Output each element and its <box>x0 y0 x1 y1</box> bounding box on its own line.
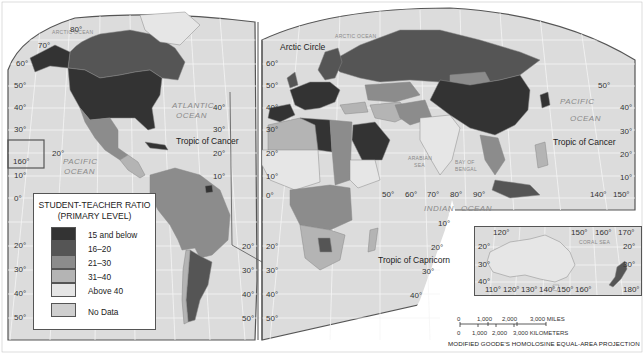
lat-label: 50° <box>598 82 610 90</box>
tropic-of-cancer-label-east: Tropic of Cancer <box>553 138 616 147</box>
lat-label: 30° <box>266 267 278 275</box>
lat-label: 70° <box>38 42 50 50</box>
lon-label: 50° <box>382 191 394 199</box>
lat-label: 30° <box>266 126 278 134</box>
pacific-ocean-label-west-1: PACIFIC <box>63 158 97 166</box>
lat-label: 10° <box>213 173 225 181</box>
legend-swatch-21-30 <box>51 255 76 269</box>
inset-lon-label: 110° <box>485 286 501 294</box>
legend-swatch-16-20 <box>51 241 76 255</box>
inset-lon-label: 140° <box>539 286 556 294</box>
lat-label: 40° <box>14 104 26 112</box>
country-australia <box>487 235 575 282</box>
tropic-of-cancer-label-west: Tropic of Cancer <box>176 137 239 146</box>
lat-label: 30° <box>14 266 26 274</box>
indian-ocean-label-2: OCEAN <box>461 205 492 213</box>
lat-label: 40° <box>242 291 254 299</box>
legend-swatch-above-40 <box>51 283 76 297</box>
legend-swatch-31-40 <box>51 269 76 283</box>
arctic-ocean-label-east: ARCTIC OCEAN <box>335 34 376 39</box>
lat-label: 20° <box>620 151 632 159</box>
legend-title-line-1: STUDENT-TEACHER RATIO <box>34 200 155 211</box>
inset-lat-label: 30° <box>623 261 635 269</box>
legend-label-16-20: 16–20 <box>88 244 111 254</box>
map-legend: STUDENT-TEACHER RATIO (PRIMARY LEVEL) 15… <box>33 193 156 330</box>
coral-sea-label: CORAL SEA <box>579 240 610 245</box>
country-suriname <box>205 185 213 193</box>
inset-lon-label: 130° <box>521 286 538 294</box>
lat-label: 20° <box>213 150 225 158</box>
prime-meridian-label: 0° <box>266 192 274 200</box>
arabian-sea-label-2: SEA <box>414 163 425 168</box>
lat-label: 10° <box>14 172 26 180</box>
bay-of-bengal-label-1: BAY OF <box>455 160 475 165</box>
lon-label: 90° <box>473 191 485 199</box>
inset-lon-label: 160° <box>595 229 612 237</box>
legend-label-31-40: 31–40 <box>88 272 111 282</box>
lat-label: 50° <box>14 314 26 322</box>
inset-lon-label: 120° <box>503 286 520 294</box>
lat-label: 40° <box>620 104 632 112</box>
atlantic-ocean-label-2: OCEAN <box>176 112 207 120</box>
lat-label: 20° <box>431 244 443 252</box>
legend-label-above-40: Above 40 <box>88 286 123 296</box>
indian-ocean-label-1: INDIAN <box>424 205 454 213</box>
inset-lon-label: 170° <box>618 229 635 237</box>
inset-lon-label: 180° <box>623 286 640 294</box>
lat-label: 0° <box>14 195 22 203</box>
lon-label: 140° <box>590 191 607 199</box>
lat-label: 30° <box>14 126 26 134</box>
inset-lon-label: 160° <box>575 286 592 294</box>
scale-km-1000: 1,000 <box>472 330 487 336</box>
lat-label: 20° <box>14 242 26 250</box>
lat-label: 20° <box>266 150 278 158</box>
tropic-of-capricorn-label: Tropic of Capricorn <box>378 256 450 265</box>
lat-label: 20° <box>266 243 278 251</box>
arctic-circle-label: Arctic Circle <box>280 43 325 52</box>
pacific-ocean-label-east-2: OCEAN <box>570 115 601 123</box>
atlantic-ocean-label-1: ATLANTIC <box>172 102 214 110</box>
lat-label: 50° <box>266 82 278 90</box>
lon-label: 60° <box>405 191 417 199</box>
lat-label: 30° <box>422 268 434 276</box>
legend-title-line-2: (PRIMARY LEVEL) <box>34 211 155 222</box>
inset-lat-label: 20° <box>478 243 490 251</box>
lat-label: 30° <box>620 128 632 136</box>
lat-label: 80° <box>70 26 82 34</box>
legend-label-no-data: No Data <box>88 307 118 317</box>
lat-label: 60° <box>16 60 28 68</box>
lat-label: 40° <box>14 290 26 298</box>
legend-label-15-below: 15 and below <box>88 230 137 240</box>
country-central-africa <box>290 185 352 230</box>
lat-label: 50° <box>266 315 278 323</box>
scale-bar: 0 1,000 2,000 3,000 MILES 0 1,000 2,000 … <box>440 300 644 355</box>
lat-label: 30° <box>242 267 254 275</box>
country-botswana <box>318 238 332 252</box>
lat-label: 40° <box>266 104 278 112</box>
projection-caption: MODIFIED GOODE'S HOMOLOSINE EQUAL-AREA P… <box>448 340 640 347</box>
lat-label: 40° <box>266 291 278 299</box>
inset-lon-label: 120° <box>493 229 510 237</box>
lon-label: 70° <box>427 191 439 199</box>
bay-of-bengal-label-2: BENGAL <box>455 167 477 172</box>
scale-km-2000: 2,000 <box>492 330 507 336</box>
lat-label: 50° <box>14 82 26 90</box>
legend-swatch-15-below <box>51 227 76 241</box>
lat-label: 10° <box>620 174 632 182</box>
inset-lon-label: 150° <box>557 286 574 294</box>
lat-label: 10° <box>266 173 278 181</box>
lat-label: 60° <box>266 60 278 68</box>
scale-km-3000: 3,000 KILOMETERS <box>513 330 568 336</box>
legend-label-21-30: 21–30 <box>88 258 111 268</box>
scale-km-0: 0 <box>457 330 460 336</box>
lon-label: 150° <box>613 191 630 199</box>
legend-swatch-no-data <box>51 303 76 317</box>
lat-label: 10° <box>438 220 450 228</box>
hawaii-longitude-label: 160° <box>13 158 30 166</box>
lat-label: 30° <box>213 126 225 134</box>
inset-lon-label: 150° <box>571 229 588 237</box>
country-japan <box>540 92 550 108</box>
lat-label: 50° <box>242 315 254 323</box>
lat-label: 40° <box>213 104 225 112</box>
lat-label: 40° <box>410 292 422 300</box>
